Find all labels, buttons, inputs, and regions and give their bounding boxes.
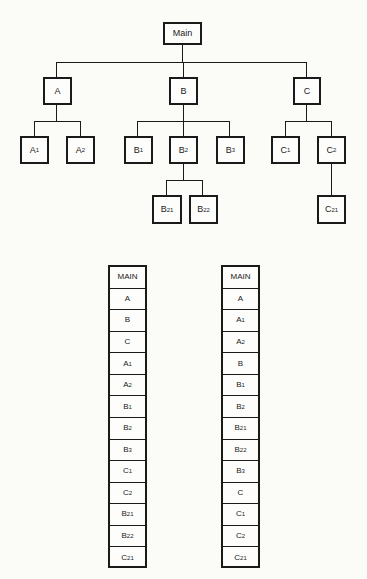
connector	[34, 121, 81, 122]
connector	[56, 62, 57, 77]
list-cell: B1	[110, 396, 145, 418]
list-cell: B2	[223, 396, 258, 418]
node-label: B	[179, 146, 185, 155]
list-cell: A	[223, 289, 258, 311]
connector	[56, 62, 307, 63]
list-cell: C2	[223, 526, 258, 548]
connector	[166, 180, 167, 195]
list-cell: A2	[223, 332, 258, 354]
cell-label: A	[236, 338, 241, 346]
node-b2: B2	[169, 136, 198, 164]
list-cell: A1	[223, 310, 258, 332]
cell-label: MAIN	[231, 273, 251, 281]
node-b1: B1	[124, 136, 153, 164]
list-cell: A	[110, 289, 145, 311]
connector	[183, 121, 184, 136]
node-main: Main	[163, 22, 202, 45]
list-cell: C	[223, 483, 258, 505]
cell-label: A	[123, 360, 128, 368]
node-label: A	[76, 146, 82, 155]
cell-label: A	[123, 381, 128, 389]
node-b3: B3	[216, 136, 245, 164]
list-cell: B3	[223, 461, 258, 483]
connector	[137, 121, 138, 136]
list-cell: B	[223, 353, 258, 375]
cell-label: B	[238, 360, 243, 368]
connector	[183, 104, 184, 121]
node-c2: C2	[317, 136, 346, 164]
node-label: C	[304, 87, 311, 96]
cell-label: C	[236, 510, 242, 518]
depth-first-list: MAIN A A1 A2 B B1 B2 B21 B22 B3 C C1 C2 …	[221, 265, 260, 568]
list-cell: B22	[223, 440, 258, 462]
cell-label: A	[125, 295, 130, 303]
node-c21: C21	[317, 195, 346, 224]
cell-label: B	[236, 381, 241, 389]
list-cell: C1	[110, 461, 145, 483]
node-b22: B22	[189, 195, 218, 224]
connector	[331, 163, 332, 195]
node-label: A	[30, 146, 36, 155]
list-cell: C2	[110, 483, 145, 505]
list-cell: B22	[110, 526, 145, 548]
node-a: A	[43, 77, 72, 105]
list-cell: B2	[110, 418, 145, 440]
node-b: B	[169, 77, 198, 105]
cell-label: C	[123, 467, 129, 475]
cell-label: B	[236, 467, 241, 475]
connector	[183, 62, 184, 77]
cell-label: C	[238, 489, 244, 497]
list-cell: B	[110, 310, 145, 332]
list-cell: A1	[110, 353, 145, 375]
cell-label: A	[236, 316, 241, 324]
connector	[34, 121, 35, 136]
cell-label: B	[125, 316, 130, 324]
list-cell: B3	[110, 440, 145, 462]
hierarchy-diagram: Main A B C A1 A2 B1 B2 B3 C1 C2 B21 B22 …	[0, 0, 367, 579]
list-cell: C	[110, 332, 145, 354]
connector	[306, 62, 307, 77]
connector	[285, 121, 286, 136]
cell-label: B	[236, 403, 241, 411]
connector	[229, 121, 230, 136]
connector	[331, 121, 332, 136]
node-label: Main	[173, 29, 193, 38]
connector	[80, 121, 81, 136]
node-a2: A2	[66, 136, 95, 164]
list-cell: B21	[110, 504, 145, 526]
node-label: B	[226, 146, 232, 155]
list-cell: MAIN	[223, 267, 258, 289]
list-cell: C1	[223, 504, 258, 526]
list-cell: C21	[223, 547, 258, 569]
cell-label: A	[238, 295, 243, 303]
list-cell: MAIN	[110, 267, 145, 289]
node-c: C	[293, 77, 321, 105]
connector	[306, 104, 307, 121]
list-cell: A2	[110, 375, 145, 397]
cell-label: B	[123, 403, 128, 411]
node-a1: A1	[20, 136, 49, 164]
breadth-first-list: MAIN A B C A1 A2 B1 B2 B3 C1 C2 B21 B22 …	[108, 265, 147, 568]
node-label: A	[54, 87, 60, 96]
cell-label: B	[123, 424, 128, 432]
connector	[285, 121, 332, 122]
list-cell: B1	[223, 375, 258, 397]
cell-label: C	[123, 489, 129, 497]
cell-label: B	[123, 446, 128, 454]
list-cell: B21	[223, 418, 258, 440]
cell-label: C	[236, 532, 242, 540]
connector	[183, 163, 184, 180]
connector	[166, 180, 203, 181]
node-label: B	[161, 205, 167, 214]
connector	[56, 104, 57, 121]
connector	[182, 44, 183, 62]
node-c1: C1	[271, 136, 300, 164]
cell-label: MAIN	[118, 273, 138, 281]
cell-label: C	[125, 338, 131, 346]
connector	[202, 180, 203, 195]
node-b21: B21	[152, 195, 182, 224]
list-cell: C21	[110, 547, 145, 569]
node-label: B	[180, 87, 186, 96]
node-label: B	[134, 146, 140, 155]
